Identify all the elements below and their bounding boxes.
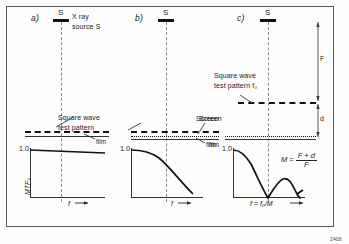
annotation-square-wave-a: Square wave test pattern: [58, 113, 100, 132]
y-axis-c: [233, 148, 234, 198]
screen-label-c: Screen: [196, 114, 219, 124]
y-axis-label-a: MTFₓ: [24, 178, 31, 195]
panel-label-b: b): [135, 13, 143, 23]
figure-container: a) S X ray source S Square wave test pat…: [0, 0, 349, 244]
x-axis-b: [131, 197, 203, 198]
x-axis-c: [233, 197, 305, 198]
y-max-label-c: 1.0: [222, 144, 232, 153]
dimension-label-F: F: [320, 55, 324, 62]
mtf-curve-a: [30, 148, 105, 198]
film-plane-a: [25, 136, 109, 137]
mtf-graph-b: [131, 148, 203, 198]
screen-plane-b: [131, 136, 219, 137]
y-max-label-a: 1.0: [19, 144, 29, 153]
source-letter-b: S: [163, 8, 169, 17]
film-label-c: film: [209, 141, 219, 148]
y-max-label-b: 1.0: [120, 144, 130, 153]
mtf-graph-a: [30, 148, 105, 198]
test-pattern-plane-b: [131, 131, 219, 133]
xray-source-caption-a: X ray source S: [72, 12, 100, 31]
test-pattern-plane-c: [238, 102, 316, 104]
x-axis-label-b: f: [171, 200, 173, 207]
screen-plane-c: [225, 136, 316, 137]
annotation-square-wave-c: Square wave test pattern f₀: [214, 71, 257, 90]
panel-label-a: a): [31, 13, 39, 23]
film-plane-b: [131, 139, 219, 140]
annotation-film-a: film: [96, 138, 106, 145]
x-axis-a: [30, 197, 105, 198]
figure-corner-code: 2408: [330, 237, 342, 242]
mtf-graph-c: [233, 148, 305, 198]
x-axis-label-c: f = f₀/M: [250, 200, 273, 207]
panel-label-c: c): [237, 13, 244, 23]
x-axis-label-a: f: [68, 200, 70, 207]
y-axis-b: [131, 148, 132, 198]
film-plane-c: [225, 139, 316, 140]
mtf-curve-c: [233, 148, 307, 200]
mtf-curve-b: [131, 148, 203, 200]
source-letter-a: S: [58, 8, 64, 17]
dimension-label-d: d: [320, 115, 324, 122]
source-letter-c: S: [265, 8, 271, 17]
